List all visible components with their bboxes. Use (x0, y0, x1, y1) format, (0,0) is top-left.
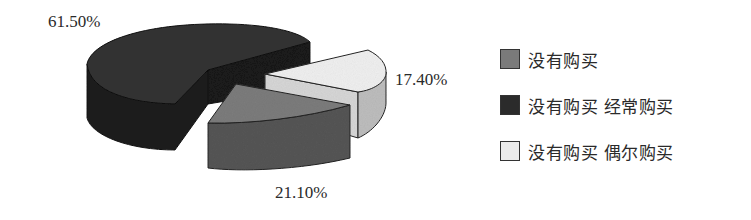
legend-item-occasional: 没有购买 偶尔购买 (500, 128, 674, 174)
label-light-pct: 17.40% (395, 70, 447, 90)
legend-item-no-purchase: 没有购买 (500, 36, 674, 82)
pie-chart: 61.50% 17.40% 21.10% (0, 0, 480, 220)
legend: 没有购买 没有购买 经常购买 没有购买 偶尔购买 (500, 36, 674, 174)
legend-swatch-dark (500, 95, 520, 115)
legend-item-frequent: 没有购买 经常购买 (500, 82, 674, 128)
legend-label: 没有购买 (528, 47, 598, 72)
pie-chart-graphic (0, 0, 480, 220)
legend-swatch-mid (500, 49, 520, 69)
legend-label: 没有购买 偶尔购买 (528, 139, 674, 164)
label-dark-pct: 61.50% (48, 12, 100, 32)
label-mid-pct: 21.10% (275, 183, 327, 203)
legend-swatch-light (500, 141, 520, 161)
legend-label: 没有购买 经常购买 (528, 93, 674, 118)
